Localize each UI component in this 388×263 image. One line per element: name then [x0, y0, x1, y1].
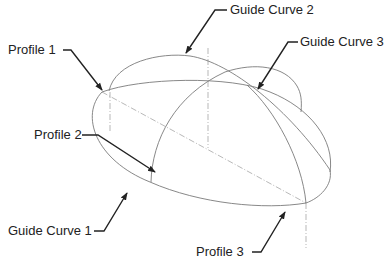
profile-2-label: Profile 2 — [34, 127, 82, 142]
profile-1-label: Profile 1 — [8, 42, 56, 57]
leaders — [63, 10, 298, 252]
curves — [92, 55, 330, 206]
guide-curve-3-label: Guide Curve 3 — [300, 34, 384, 49]
profile-1-curve — [92, 92, 306, 206]
centerlines — [102, 48, 306, 248]
loft-diagram: Profile 1 Guide Curve 2 Guide Curve 3 Pr… — [0, 0, 388, 263]
profile-3-curve — [247, 85, 306, 203]
guide-curve-2 — [109, 55, 330, 203]
profile-2-leader — [82, 135, 155, 172]
guide-curve-2-label: Guide Curve 2 — [230, 2, 314, 17]
profile-1-leader — [63, 50, 102, 90]
profile-top-arc — [102, 80, 331, 172]
profile-3-label: Profile 3 — [196, 244, 244, 259]
guide-curve-1-leader — [94, 193, 127, 231]
main-axis-centerline — [102, 92, 306, 203]
profile-3-leader — [252, 212, 285, 252]
guide-curve-3-leader — [258, 42, 298, 89]
guide-curve-1-label: Guide Curve 1 — [8, 223, 92, 238]
guide-curve-2-leader — [186, 10, 227, 53]
